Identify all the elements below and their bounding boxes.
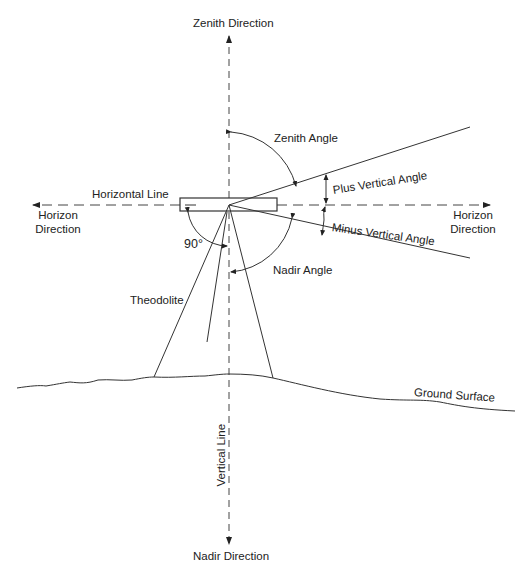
- minus-vertical-angle-marker: [322, 207, 325, 235]
- nadir-direction-label: Nadir Direction: [193, 549, 269, 563]
- zenith-direction-label: Zenith Direction: [193, 16, 274, 30]
- vertical-line-label: Vertical Line: [214, 420, 228, 490]
- horizon-direction-right-label: Horizon Direction: [443, 208, 503, 237]
- horizon-direction-left-label: Horizon Direction: [28, 208, 88, 237]
- theodolite-label: Theodolite: [130, 293, 184, 307]
- diagram-canvas: [0, 0, 525, 574]
- horizontal-line-label: Horizontal Line: [92, 187, 169, 201]
- nadir-angle-label: Nadir Angle: [273, 263, 332, 277]
- zenith-angle-label: Zenith Angle: [274, 131, 338, 145]
- tripod-legs: [154, 205, 273, 378]
- right-angle-label: 90°: [184, 237, 203, 253]
